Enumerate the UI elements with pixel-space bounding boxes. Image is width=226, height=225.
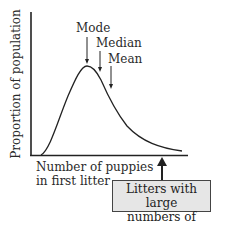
callout-line2: numbers of puppies xyxy=(113,210,210,225)
median-arrowhead xyxy=(98,67,102,72)
mean-label: Mean xyxy=(108,52,142,66)
mean-arrowhead xyxy=(109,84,113,89)
y-axis-label: Proportion of population xyxy=(9,9,23,159)
callout-line1: Litters with large xyxy=(113,182,210,210)
mode-label: Mode xyxy=(76,21,110,35)
x-axis-label-line2: in first litter xyxy=(36,174,110,188)
median-label: Median xyxy=(96,36,142,50)
x-axis-label-line1: Number of puppies xyxy=(36,160,153,174)
mode-arrowhead xyxy=(85,59,89,64)
callout-box: Litters with large numbers of puppies xyxy=(112,180,211,212)
callout-arrowhead xyxy=(157,157,167,166)
